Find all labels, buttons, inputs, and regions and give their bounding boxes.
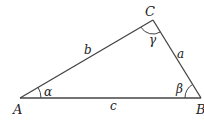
angle-arc-beta — [185, 84, 193, 98]
angle-label-beta: β — [175, 82, 183, 96]
side-label-a: a — [177, 47, 184, 61]
vertex-label-a: A — [12, 102, 22, 117]
vertex-label-c: C — [145, 4, 155, 19]
side-label-b: b — [84, 43, 92, 57]
angle-label-gamma: γ — [149, 33, 157, 47]
angle-arc-alpha — [38, 87, 41, 98]
side-label-c: c — [110, 99, 117, 113]
vertex-label-b: B — [195, 102, 204, 117]
angle-label-alpha: α — [44, 85, 52, 99]
triangle-diagram: A B C b a c α β γ — [0, 0, 204, 121]
side-b — [20, 20, 153, 98]
